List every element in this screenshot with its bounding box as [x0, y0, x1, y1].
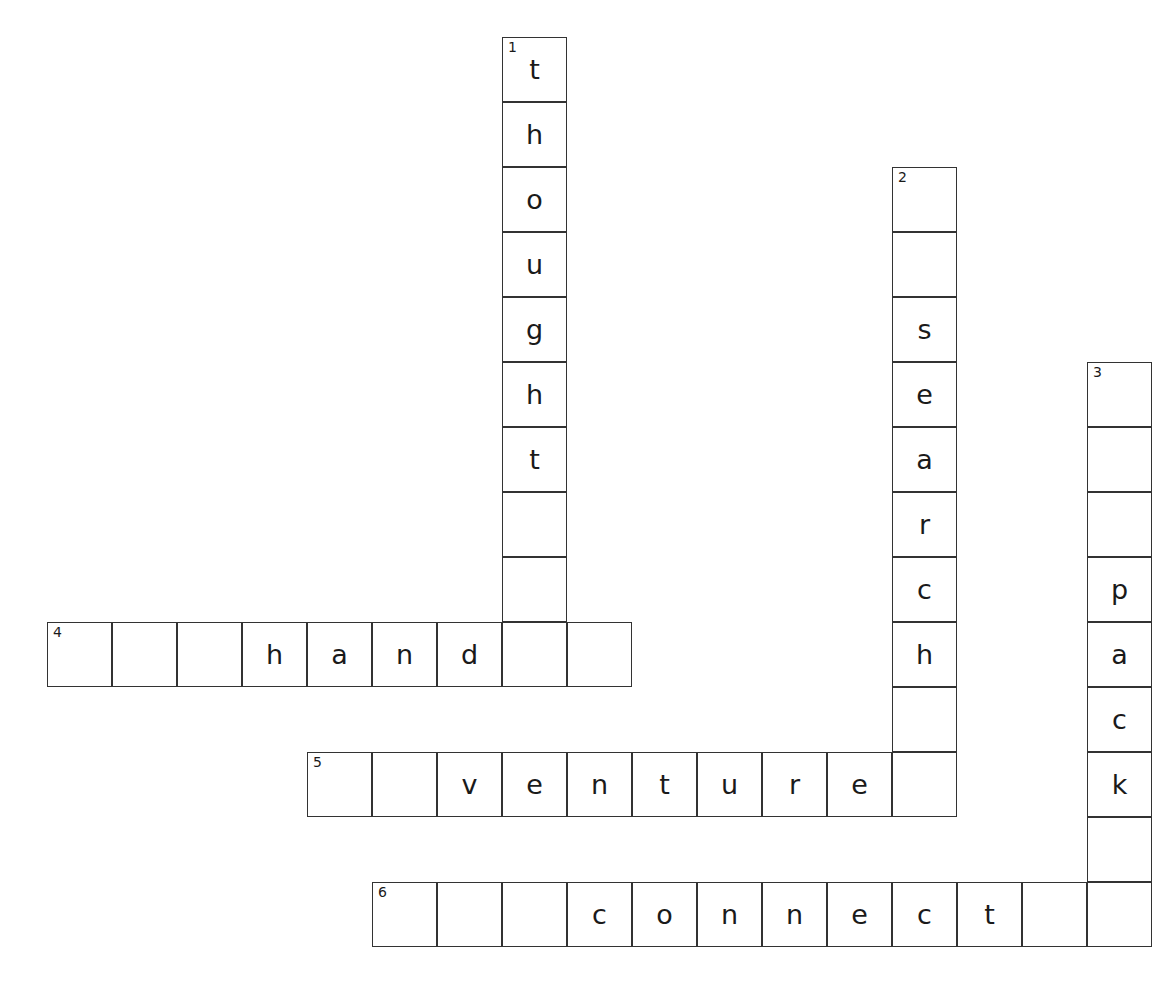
- crossword-cell[interactable]: c: [567, 882, 632, 947]
- crossword-cell[interactable]: k: [1087, 752, 1152, 817]
- cell-letter: e: [916, 381, 933, 408]
- crossword-cell[interactable]: c: [892, 557, 957, 622]
- cell-letter: u: [721, 771, 738, 798]
- crossword-cell[interactable]: [1087, 492, 1152, 557]
- crossword-cell[interactable]: e: [892, 362, 957, 427]
- cell-letter: s: [917, 316, 931, 343]
- crossword-cell[interactable]: d: [437, 622, 502, 687]
- cell-letter: a: [331, 641, 348, 668]
- crossword-cell[interactable]: 1t: [502, 37, 567, 102]
- cell-letter: h: [916, 641, 933, 668]
- cell-letter: e: [851, 771, 868, 798]
- crossword-cell[interactable]: n: [567, 752, 632, 817]
- crossword-cell[interactable]: t: [957, 882, 1022, 947]
- cell-letter: c: [917, 901, 932, 928]
- crossword-cell[interactable]: e: [502, 752, 567, 817]
- cell-letter: t: [984, 901, 995, 928]
- cell-letter: n: [786, 901, 803, 928]
- crossword-cell[interactable]: a: [892, 427, 957, 492]
- cell-number: 1: [508, 40, 517, 54]
- crossword-cell[interactable]: a: [307, 622, 372, 687]
- crossword-cell[interactable]: a: [1087, 622, 1152, 687]
- crossword-cell[interactable]: u: [697, 752, 762, 817]
- cell-letter: v: [462, 771, 478, 798]
- crossword-cell[interactable]: h: [892, 622, 957, 687]
- crossword-cell[interactable]: 4: [47, 622, 112, 687]
- cell-letter: t: [529, 56, 540, 83]
- crossword-cell[interactable]: s: [892, 297, 957, 362]
- crossword-cell[interactable]: [372, 752, 437, 817]
- crossword-cell[interactable]: h: [502, 102, 567, 167]
- crossword-cell[interactable]: g: [502, 297, 567, 362]
- crossword-cell[interactable]: [1022, 882, 1087, 947]
- cell-number: 6: [378, 885, 387, 899]
- cell-number: 2: [898, 170, 907, 184]
- cell-number: 4: [53, 625, 62, 639]
- crossword-cell[interactable]: [112, 622, 177, 687]
- cell-letter: c: [1112, 706, 1127, 733]
- cell-letter: c: [917, 576, 932, 603]
- crossword-cell[interactable]: r: [892, 492, 957, 557]
- crossword-cell[interactable]: 2: [892, 167, 957, 232]
- cell-letter: e: [526, 771, 543, 798]
- crossword-cell[interactable]: [892, 687, 957, 752]
- crossword-cell[interactable]: [892, 752, 957, 817]
- crossword-cell[interactable]: 5: [307, 752, 372, 817]
- crossword-cell[interactable]: u: [502, 232, 567, 297]
- cell-letter: a: [916, 446, 933, 473]
- cell-letter: a: [1111, 641, 1128, 668]
- crossword-cell[interactable]: [437, 882, 502, 947]
- cell-letter: p: [1111, 576, 1128, 603]
- cell-letter: o: [656, 901, 673, 928]
- cell-letter: d: [461, 641, 478, 668]
- crossword-cell[interactable]: o: [632, 882, 697, 947]
- cell-letter: h: [526, 381, 543, 408]
- crossword-cell[interactable]: [502, 882, 567, 947]
- crossword-cell[interactable]: t: [632, 752, 697, 817]
- cell-letter: e: [851, 901, 868, 928]
- cell-letter: k: [1112, 771, 1128, 798]
- crossword-cell[interactable]: [1087, 427, 1152, 492]
- crossword-cell[interactable]: p: [1087, 557, 1152, 622]
- crossword-cell[interactable]: 6: [372, 882, 437, 947]
- crossword-cell[interactable]: e: [827, 882, 892, 947]
- cell-number: 5: [313, 755, 322, 769]
- crossword-cell[interactable]: n: [697, 882, 762, 947]
- crossword-cell[interactable]: c: [1087, 687, 1152, 752]
- cell-letter: t: [529, 446, 540, 473]
- cell-letter: o: [526, 186, 543, 213]
- cell-letter: n: [591, 771, 608, 798]
- cell-letter: c: [592, 901, 607, 928]
- crossword-cell[interactable]: [502, 557, 567, 622]
- crossword-cell[interactable]: 3: [1087, 362, 1152, 427]
- crossword-cell[interactable]: o: [502, 167, 567, 232]
- crossword-cell[interactable]: n: [762, 882, 827, 947]
- crossword-cell[interactable]: c: [892, 882, 957, 947]
- crossword-cell[interactable]: [892, 232, 957, 297]
- crossword-cell[interactable]: [567, 622, 632, 687]
- crossword-cell[interactable]: [502, 622, 567, 687]
- crossword-cell[interactable]: e: [827, 752, 892, 817]
- cell-letter: r: [919, 511, 930, 538]
- crossword-cell[interactable]: [1087, 817, 1152, 882]
- cell-letter: t: [659, 771, 670, 798]
- crossword-cell[interactable]: t: [502, 427, 567, 492]
- crossword-cell[interactable]: n: [372, 622, 437, 687]
- crossword-cell[interactable]: [1087, 882, 1152, 947]
- crossword-cell[interactable]: [177, 622, 242, 687]
- crossword-cell[interactable]: [502, 492, 567, 557]
- cell-letter: r: [789, 771, 800, 798]
- crossword-cell[interactable]: v: [437, 752, 502, 817]
- cell-number: 3: [1093, 365, 1102, 379]
- crossword-cell[interactable]: h: [242, 622, 307, 687]
- crossword-cell[interactable]: h: [502, 362, 567, 427]
- cell-letter: n: [396, 641, 413, 668]
- crossword-cell[interactable]: r: [762, 752, 827, 817]
- cell-letter: h: [266, 641, 283, 668]
- cell-letter: g: [526, 316, 543, 343]
- cell-letter: u: [526, 251, 543, 278]
- cell-letter: h: [526, 121, 543, 148]
- cell-letter: n: [721, 901, 738, 928]
